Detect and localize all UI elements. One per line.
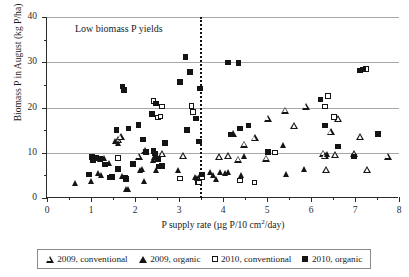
x-axis-title: P supply rate (µg P/10 cm2/day) [47, 218, 399, 230]
data-point-open-triangle [281, 107, 289, 114]
data-point-open-triangle [264, 115, 272, 122]
data-point-open-triangle [322, 166, 330, 173]
legend-label: 2010, conventional [221, 254, 291, 264]
data-point-filled-triangle [72, 180, 78, 186]
legend-item: 2010, organic [302, 254, 362, 264]
data-point-open-square [325, 93, 331, 99]
data-point-open-triangle [215, 153, 223, 160]
data-point-open-triangle [363, 166, 371, 173]
data-point-filled-square [318, 97, 324, 103]
plot-area: Low biomass P yields 010203040 012345678… [46, 17, 398, 198]
data-point-filled-triangle [98, 172, 104, 178]
x-tick-major [179, 197, 180, 202]
data-point-filled-square [155, 156, 161, 162]
data-point-filled-square [360, 67, 366, 73]
y-tick-label: 40 [0, 12, 37, 22]
x-tick-label: 5 [255, 205, 279, 215]
legend-item: 2009, organic [139, 254, 201, 264]
data-point-filled-square [196, 139, 202, 145]
data-point-filled-triangle [280, 142, 286, 148]
legend-label: 2009, conventional [57, 254, 127, 264]
data-point-filled-square [136, 122, 142, 128]
data-point-filled-square [225, 60, 231, 66]
x-tick-major [223, 197, 224, 202]
data-point-open-triangle [179, 152, 187, 159]
legend-label: 2010, organic [312, 254, 362, 264]
y-tick-label: 10 [0, 148, 37, 158]
data-point-filled-triangle [301, 166, 307, 172]
data-point-filled-triangle [141, 178, 147, 184]
x-tick-label: 1 [79, 205, 103, 215]
legend-marker-open-square-icon [212, 256, 218, 262]
data-point-filled-square [246, 123, 252, 129]
data-point-open-square [158, 114, 164, 120]
data-point-filled-triangle [213, 176, 219, 182]
data-point-filled-square [184, 127, 190, 133]
x-tick-minor [377, 197, 378, 200]
data-point-filled-square [109, 174, 115, 180]
data-point-open-square [237, 178, 243, 184]
data-point-filled-square [187, 69, 193, 75]
y-tick-minor [44, 40, 47, 41]
data-point-filled-square [140, 137, 146, 143]
data-point-filled-square [228, 132, 234, 138]
data-point-open-triangle [302, 103, 310, 110]
x-tick-minor [333, 197, 334, 200]
y-tick-major [42, 108, 47, 109]
y-tick-label: 30 [0, 57, 37, 67]
data-point-filled-triangle [241, 153, 247, 159]
data-point-open-triangle [240, 141, 248, 148]
x-tick-minor [245, 197, 246, 200]
data-point-filled-square [121, 87, 127, 93]
data-point-filled-square [375, 131, 381, 137]
x-tick-major [135, 197, 136, 202]
x-tick-label: 7 [343, 205, 367, 215]
data-point-open-triangle [331, 151, 339, 158]
data-point-filled-square [183, 54, 189, 60]
x-tick-major [267, 197, 268, 202]
x-tick-minor [157, 197, 158, 200]
data-point-filled-square [102, 162, 108, 168]
gridline [47, 17, 399, 18]
x-tick-minor [289, 197, 290, 200]
data-point-filled-square [236, 60, 242, 66]
x-tick-major [311, 197, 312, 202]
x-tick-label: 6 [299, 205, 323, 215]
legend-marker-filled-square-icon [302, 256, 308, 262]
x-tick-minor [113, 197, 114, 200]
data-point-open-square [322, 104, 328, 110]
y-tick-minor [44, 175, 47, 176]
data-point-open-square [272, 150, 278, 156]
legend-item: 2010, conventional [212, 254, 292, 264]
x-axis-title-superscript: 2 [261, 218, 265, 226]
data-point-filled-square [351, 154, 357, 160]
x-tick-major [91, 197, 92, 202]
data-point-open-triangle [262, 155, 270, 162]
x-tick-major [355, 197, 356, 202]
data-point-open-square [115, 155, 121, 161]
x-tick-label: 2 [123, 205, 147, 215]
data-point-filled-square [237, 126, 243, 132]
x-tick-major [47, 197, 48, 202]
y-tick-major [42, 17, 47, 18]
data-point-filled-triangle [139, 166, 145, 172]
plot-annotation: Low biomass P yields [75, 23, 163, 34]
data-point-filled-square [199, 172, 205, 178]
data-point-filled-triangle [115, 140, 121, 146]
data-point-filled-triangle [175, 167, 181, 173]
data-point-open-triangle [251, 134, 259, 141]
data-point-open-square [159, 104, 165, 110]
data-point-filled-triangle [283, 171, 289, 177]
y-tick-major [42, 62, 47, 63]
data-point-filled-square [265, 149, 271, 155]
legend-label: 2009, organic [150, 254, 200, 264]
scatter-plot-figure: Biomass P in August (kg P/ha) Low biomas… [0, 0, 409, 277]
data-point-filled-triangle [324, 151, 330, 157]
x-tick-minor [69, 197, 70, 200]
x-tick-major [399, 197, 400, 202]
data-point-open-square [177, 176, 183, 182]
data-point-filled-square [123, 175, 129, 181]
data-point-filled-square [143, 149, 149, 155]
data-point-filled-square [335, 144, 341, 150]
x-tick-label: 3 [167, 205, 191, 215]
